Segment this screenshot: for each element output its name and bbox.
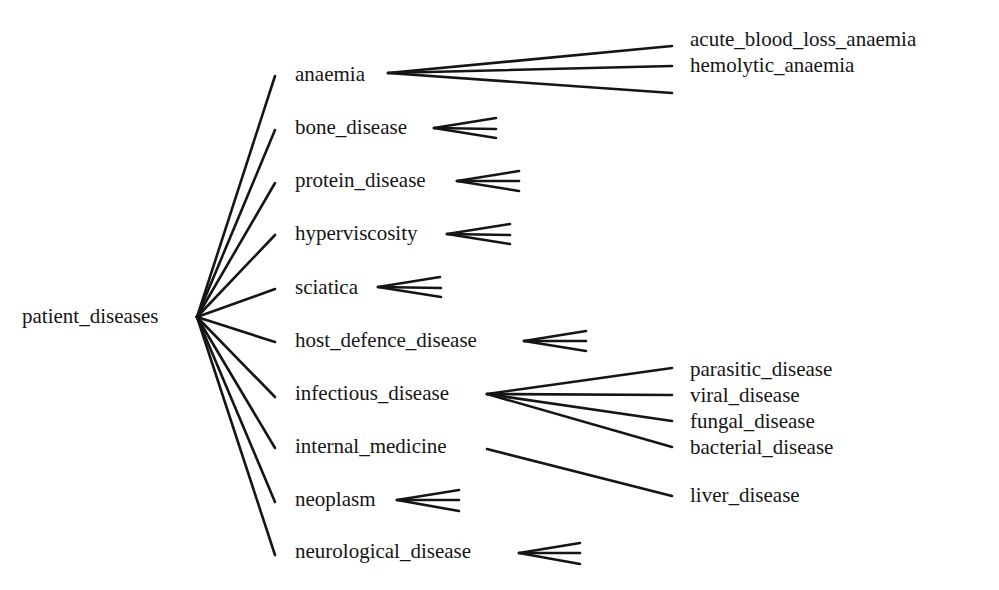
node-fungal-disease: fungal_disease [690,411,815,432]
collapsed-stub-hyperviscosity [447,224,510,244]
node-internal-medicine: internal_medicine [295,436,447,457]
tree-diagram: patient_diseases anaemia bone_disease pr… [0,0,999,590]
root-edges [197,76,275,555]
internal-medicine-edges [487,449,672,496]
node-bone-disease: bone_disease [295,117,407,138]
collapsed-stub-neoplasm [397,490,459,511]
node-protein-disease: protein_disease [295,170,426,191]
collapsed-stub-bone-disease [434,118,496,138]
node-sciatica: sciatica [295,277,358,298]
node-infectious-disease: infectious_disease [295,383,449,404]
collapsed-stub-sciatica [378,277,441,297]
node-neoplasm: neoplasm [295,489,375,510]
collapsed-stub-host-defence-disease [524,331,586,351]
node-anaemia: anaemia [295,64,365,85]
node-neurological-disease: neurological_disease [295,541,471,562]
infectious-disease-edges [487,368,672,447]
node-host-defence-disease: host_defence_disease [295,330,477,351]
node-bacterial-disease: bacterial_disease [690,437,833,458]
tree-edges [0,0,999,590]
collapsed-stub-neurological-disease [519,543,580,564]
node-liver-disease: liver_disease [690,485,800,506]
node-hyperviscosity: hyperviscosity [295,223,417,244]
node-patient-diseases: patient_diseases [22,306,158,327]
node-hemolytic-anaemia: hemolytic_anaemia [690,55,854,76]
node-viral-disease: viral_disease [690,385,800,406]
node-parasitic-disease: parasitic_disease [690,359,832,380]
node-acute-blood-loss-anaemia: acute_blood_loss_anaemia [690,29,916,50]
collapsed-stub-protein-disease [457,171,519,191]
anaemia-edges [388,46,672,93]
